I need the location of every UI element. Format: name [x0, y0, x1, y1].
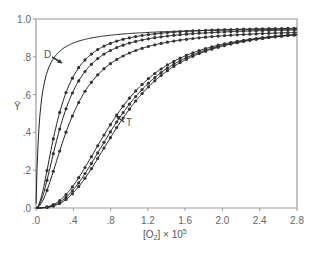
data-point	[64, 107, 67, 110]
data-point	[179, 33, 182, 36]
data-point	[223, 44, 226, 47]
data-point	[122, 111, 125, 114]
data-point	[71, 114, 74, 117]
x-tick-label: 2.0	[215, 215, 229, 226]
data-point	[90, 63, 93, 66]
data-point	[71, 185, 74, 188]
data-point	[52, 170, 55, 173]
data-point	[64, 131, 67, 134]
data-point	[147, 33, 150, 36]
x-tick-label: 1.2	[141, 215, 155, 226]
data-point	[153, 32, 156, 35]
data-point	[217, 31, 220, 34]
x-tick-label: .0	[32, 215, 41, 226]
data-point	[153, 43, 156, 46]
data-point	[236, 33, 239, 36]
data-point	[172, 65, 175, 68]
x-tick-label: .8	[106, 215, 115, 226]
data-point	[147, 37, 150, 40]
data-point	[134, 49, 137, 52]
data-point	[191, 32, 194, 35]
data-point	[255, 38, 258, 41]
curve-curve-4	[36, 32, 297, 208]
data-point	[96, 73, 99, 76]
data-point	[198, 32, 201, 35]
data-point	[141, 47, 144, 50]
data-point	[166, 34, 169, 37]
data-point	[160, 71, 163, 74]
data-point	[58, 111, 61, 114]
data-point	[71, 192, 74, 195]
data-point	[153, 36, 156, 39]
data-point	[128, 103, 131, 106]
data-point	[185, 58, 188, 61]
data-point	[90, 81, 93, 84]
x-tick-label: 1.6	[178, 215, 192, 226]
data-point	[45, 206, 48, 209]
data-point	[83, 172, 86, 175]
data-point	[141, 34, 144, 37]
data-point	[128, 108, 131, 111]
data-point	[153, 72, 156, 75]
data-point	[77, 176, 80, 179]
data-point	[83, 58, 86, 61]
data-point	[223, 34, 226, 37]
data-point	[96, 157, 99, 160]
data-point	[236, 41, 239, 44]
data-point	[166, 31, 169, 34]
data-point	[96, 48, 99, 51]
data-point	[172, 30, 175, 33]
data-point	[109, 123, 112, 126]
data-point	[229, 34, 232, 37]
data-point	[109, 42, 112, 45]
data-point	[261, 37, 264, 40]
data-point	[217, 46, 220, 49]
data-point	[185, 38, 188, 41]
plot-frame	[36, 19, 297, 208]
data-point	[109, 62, 112, 65]
data-point	[96, 151, 99, 154]
data-point	[141, 88, 144, 91]
data-point	[134, 99, 137, 102]
data-point	[52, 137, 55, 140]
y-tick-label: .4	[23, 127, 32, 138]
data-point	[147, 45, 150, 48]
data-point	[45, 179, 48, 182]
data-point	[45, 189, 48, 192]
data-point	[71, 77, 74, 80]
data-point	[109, 130, 112, 133]
data-point	[122, 117, 125, 120]
y-tick-label: .6	[23, 90, 32, 101]
data-point	[64, 198, 67, 201]
data-point	[198, 36, 201, 39]
data-point	[274, 31, 277, 34]
data-point	[122, 44, 125, 47]
data-point	[198, 52, 201, 55]
data-point	[115, 120, 118, 123]
data-point	[147, 77, 150, 80]
data-point	[280, 35, 283, 38]
oxygen-binding-chart: .0.4.81.21.62.02.42.8.0.2.4.6.81.0 Ȳ [O2…	[0, 0, 317, 254]
data-point	[255, 32, 258, 35]
data-point	[109, 136, 112, 139]
data-point	[293, 33, 296, 36]
data-point	[115, 40, 118, 43]
data-point	[147, 85, 150, 88]
data-point	[166, 69, 169, 72]
data-point	[102, 53, 105, 56]
x-tick-label: 2.8	[290, 215, 304, 226]
x-axis-label: [O2] × 105	[143, 228, 187, 241]
data-point	[179, 39, 182, 42]
data-point	[274, 29, 277, 32]
data-point	[160, 32, 163, 35]
data-point	[109, 49, 112, 52]
curve-curve-3	[36, 30, 297, 208]
data-point	[115, 58, 118, 61]
data-point	[102, 133, 105, 136]
data-point	[134, 40, 137, 43]
data-point	[185, 33, 188, 36]
data-point	[96, 57, 99, 60]
data-point	[242, 33, 245, 36]
data-point	[242, 30, 245, 33]
data-point	[267, 29, 270, 32]
